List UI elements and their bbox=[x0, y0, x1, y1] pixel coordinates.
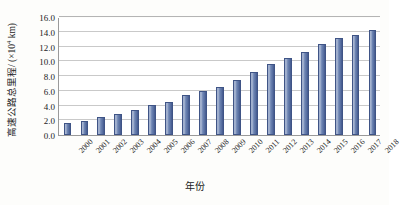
bar-slot bbox=[296, 18, 313, 135]
x-axis-title: 年份 bbox=[0, 178, 389, 193]
x-axis-tick-label: 2006 bbox=[180, 138, 197, 155]
bar[interactable] bbox=[301, 52, 309, 135]
bar-slot bbox=[178, 18, 195, 135]
bar-slot bbox=[195, 18, 212, 135]
bar-slot bbox=[127, 18, 144, 135]
y-axis-tick-label: 10.0 bbox=[39, 58, 55, 67]
x-axis-tick-label: 2017 bbox=[366, 138, 383, 155]
x-axis-tick-label: 2012 bbox=[282, 138, 299, 155]
bar[interactable] bbox=[64, 123, 72, 135]
bar[interactable] bbox=[182, 95, 190, 135]
bar-slot bbox=[347, 18, 364, 135]
bar-slot bbox=[364, 18, 381, 135]
x-axis-tick-label: 2016 bbox=[349, 138, 366, 155]
bar[interactable] bbox=[335, 38, 343, 135]
bar[interactable] bbox=[148, 105, 156, 135]
bar[interactable] bbox=[114, 114, 122, 135]
x-axis-tick-label: 2010 bbox=[248, 138, 265, 155]
bars-layer bbox=[59, 18, 380, 135]
x-axis-tick-label: 2000 bbox=[78, 138, 95, 155]
bar[interactable] bbox=[131, 110, 139, 135]
bar-slot bbox=[313, 18, 330, 135]
y-axis-title: 高速公路总里程/ (×104 km) bbox=[0, 0, 22, 160]
x-axis-tick-label: 2004 bbox=[146, 138, 163, 155]
gridline bbox=[59, 16, 380, 17]
bar-slot bbox=[279, 18, 296, 135]
bar[interactable] bbox=[369, 30, 377, 135]
x-axis-tick-labels: 2000200120022003200420052006200720082009… bbox=[58, 138, 380, 174]
x-axis-tick-label: 2018 bbox=[383, 138, 400, 155]
bar[interactable] bbox=[318, 44, 326, 135]
bar-slot bbox=[330, 18, 347, 135]
bar[interactable] bbox=[284, 58, 292, 135]
y-axis-tick-label: 6.0 bbox=[44, 87, 55, 96]
y-axis-tick-label: 14.0 bbox=[39, 28, 55, 37]
bar[interactable] bbox=[352, 35, 360, 135]
bar-slot bbox=[144, 18, 161, 135]
bar[interactable] bbox=[199, 91, 207, 135]
x-axis-tick-label: 2003 bbox=[129, 138, 146, 155]
y-axis-tick-label: 0.0 bbox=[44, 132, 55, 141]
y-axis-tick-label: 2.0 bbox=[44, 117, 55, 126]
plot-area bbox=[58, 18, 380, 136]
y-axis-tick-label: 12.0 bbox=[39, 43, 55, 52]
x-axis-tick-label: 2015 bbox=[332, 138, 349, 155]
bar-slot bbox=[76, 18, 93, 135]
x-axis-tick-label: 2001 bbox=[95, 138, 112, 155]
y-axis-tick-label: 4.0 bbox=[44, 102, 55, 111]
x-axis-tick-label: 2014 bbox=[315, 138, 332, 155]
bar[interactable] bbox=[267, 64, 275, 135]
x-axis-tick-label: 2009 bbox=[231, 138, 248, 155]
y-axis-tick-label: 16.0 bbox=[39, 14, 55, 23]
bar-slot bbox=[59, 18, 76, 135]
bar[interactable] bbox=[97, 117, 105, 135]
y-axis-title-text: 高速公路总里程/ (×104 km) bbox=[4, 23, 18, 137]
bar-slot bbox=[212, 18, 229, 135]
bar-slot bbox=[262, 18, 279, 135]
y-axis-exponent: 4 bbox=[5, 41, 12, 44]
bar[interactable] bbox=[233, 80, 241, 135]
bar[interactable] bbox=[165, 102, 173, 135]
x-axis-tick-label: 2005 bbox=[163, 138, 180, 155]
x-axis-tick-label: 2007 bbox=[197, 138, 214, 155]
bar-slot bbox=[93, 18, 110, 135]
x-axis-tick-label: 2013 bbox=[298, 138, 315, 155]
y-axis-tick-label: 8.0 bbox=[44, 73, 55, 82]
x-axis-tick-label: 2002 bbox=[112, 138, 129, 155]
bar-slot bbox=[228, 18, 245, 135]
y-axis-tick-labels: 0.02.04.06.08.010.012.014.016.0 bbox=[22, 18, 58, 136]
x-axis-tick-label: 2011 bbox=[264, 138, 281, 155]
bar[interactable] bbox=[81, 121, 89, 135]
bar[interactable] bbox=[216, 87, 224, 135]
bar-slot bbox=[245, 18, 262, 135]
bar[interactable] bbox=[250, 72, 258, 135]
x-axis-tick-label: 2008 bbox=[214, 138, 231, 155]
bar-slot bbox=[161, 18, 178, 135]
bar-slot bbox=[110, 18, 127, 135]
